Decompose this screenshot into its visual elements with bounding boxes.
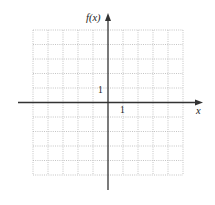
y-axis-label: f(x)	[86, 12, 101, 24]
x-axis-label: x	[195, 105, 201, 116]
y-axis-arrow-icon	[105, 13, 111, 21]
y-axis	[105, 13, 111, 190]
coordinate-plane: f(x) x 1 1	[0, 0, 215, 205]
y-tick-label: 1	[98, 85, 103, 95]
x-tick-label: 1	[120, 105, 125, 115]
x-axis	[18, 100, 203, 106]
